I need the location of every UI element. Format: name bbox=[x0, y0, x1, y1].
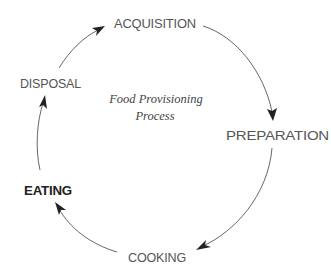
arrowhead-icon bbox=[196, 240, 211, 250]
arrowhead-icon bbox=[92, 26, 105, 36]
arrow-cooking-to-eating bbox=[55, 202, 117, 252]
center-title-line1: Food Provisioning bbox=[108, 92, 203, 106]
node-cooking: COOKING bbox=[128, 250, 186, 265]
arrowhead-icon bbox=[39, 95, 47, 109]
arrow-eating-to-disposal bbox=[37, 95, 47, 170]
node-preparation: PREPARATION bbox=[226, 128, 329, 143]
node-acquisition: ACQUISITION bbox=[114, 16, 196, 31]
arrow-disposal-to-acquisition bbox=[59, 26, 105, 68]
node-disposal: DISPOSAL bbox=[20, 76, 81, 91]
node-eating: EATING bbox=[24, 183, 72, 198]
food-provisioning-cycle-diagram: ACQUISITION PREPARATION COOKING EATING D… bbox=[0, 0, 331, 276]
arrowhead-icon bbox=[55, 202, 66, 215]
arrow-preparation-to-cooking bbox=[196, 148, 272, 250]
center-title-line2: Process bbox=[134, 109, 174, 123]
arrow-acquisition-to-preparation bbox=[203, 26, 277, 121]
